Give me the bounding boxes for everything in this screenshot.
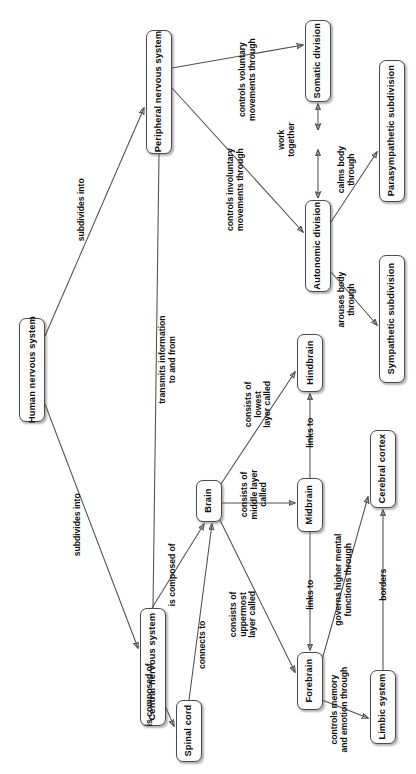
- node-som[interactable]: Somatic division: [305, 20, 331, 102]
- node-cns[interactable]: Central nervous system: [140, 608, 166, 726]
- edge-forebrain-limbic: [322, 700, 368, 718]
- node-label-symp: Sympathetic subdivision: [387, 263, 396, 375]
- edge-label-aut-symp: arouses body through: [337, 264, 356, 336]
- node-fore[interactable]: Forebrain: [297, 652, 323, 710]
- concept-map-canvas: Human nervous systemPeripheral nervous s…: [0, 0, 416, 774]
- edge-label-brain-hind: consists of lowest layer called: [244, 373, 273, 435]
- edge-hns-cns: [45, 404, 138, 648]
- edge-label-hns-cns: subdivides into: [73, 485, 83, 565]
- edge-label-mid-fore: links to: [306, 573, 316, 617]
- node-mid[interactable]: Midbrain: [297, 478, 323, 532]
- edge-spinal-brain: [189, 524, 212, 700]
- node-hind[interactable]: Hindbrain: [297, 334, 323, 392]
- node-hns[interactable]: Human nervous system: [19, 318, 45, 422]
- edge-label-pns-cns: transmits information to and from: [158, 307, 177, 413]
- node-label-mid: Midbrain: [305, 485, 314, 525]
- edge-brain-hindbrain: [219, 372, 295, 487]
- edge-label-limb-cort: borders: [379, 563, 389, 607]
- edge-autonomic-parasympathetic: [331, 152, 377, 222]
- edge-pns-autonomic: [172, 88, 303, 232]
- edge-label-pns-aut: controls involuntary movements through: [226, 132, 245, 248]
- node-label-pns: Peripheral nervous system: [154, 31, 163, 152]
- node-cort[interactable]: Cerebral cortex: [370, 430, 396, 508]
- node-label-spinal: Spinal cord: [184, 705, 193, 757]
- node-aut[interactable]: Autonomic division: [305, 200, 331, 292]
- edge-label-pns-som: controls voluntary movements through: [238, 25, 257, 135]
- node-label-para: Parasympathetic subdivision: [387, 65, 396, 196]
- node-symp[interactable]: Sympathetic subdivision: [379, 255, 405, 383]
- node-spinal[interactable]: Spinal cord: [176, 700, 202, 762]
- edge-label-brain-fore: consists of uppermost layer called: [229, 580, 258, 648]
- edge-layer: [0, 0, 416, 774]
- edge-label-hns-pns: subdivides into: [77, 170, 87, 250]
- node-limb[interactable]: Limbic system: [370, 670, 396, 744]
- edge-label-aut-para: calms body through: [337, 139, 356, 201]
- edge-brain-forebrain: [219, 518, 295, 672]
- edge-label-cns-brain: is composed of: [168, 538, 178, 612]
- edge-hns-pns: [45, 108, 144, 336]
- edge-label-fore-cort: governs higher mental functions through: [334, 520, 353, 640]
- node-label-aut: Autonomic division: [313, 202, 322, 290]
- edge-label-aut-som: work together: [277, 116, 296, 164]
- node-label-cort: Cerebral cortex: [378, 434, 387, 504]
- node-label-som: Somatic division: [313, 23, 322, 98]
- edge-pns-cns: [153, 154, 159, 608]
- node-label-cns: Central nervous system: [148, 613, 157, 721]
- node-pns[interactable]: Peripheral nervous system: [146, 30, 172, 154]
- node-brain[interactable]: Brain: [196, 480, 222, 522]
- edge-pns-somatic: [172, 45, 303, 68]
- edge-forebrain-cortex: [322, 497, 368, 660]
- edge-label-fore-limb: controls memory and emotion through: [330, 658, 349, 762]
- node-label-limb: Limbic system: [378, 674, 387, 740]
- node-label-brain: Brain: [204, 489, 213, 513]
- node-label-hind: Hindbrain: [305, 341, 314, 385]
- node-label-hns: Human nervous system: [27, 317, 36, 424]
- edge-label-spinal-brain: connects to: [198, 614, 208, 676]
- edge-autonomic-sympathetic: [331, 272, 377, 325]
- edge-cns-brain: [152, 524, 204, 608]
- node-para[interactable]: Parasympathetic subdivision: [379, 60, 405, 202]
- node-label-fore: Forebrain: [305, 659, 314, 703]
- edge-label-mid-hind: links to: [306, 411, 316, 455]
- edge-label-brain-mid: consists of middle layer called: [240, 460, 269, 528]
